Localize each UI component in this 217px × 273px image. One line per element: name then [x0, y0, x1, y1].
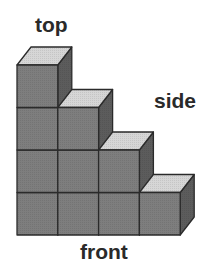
cube-staircase-diagram [0, 0, 217, 273]
top-label: top [35, 14, 68, 35]
front-label: front [80, 241, 128, 262]
side-label: side [154, 90, 196, 111]
